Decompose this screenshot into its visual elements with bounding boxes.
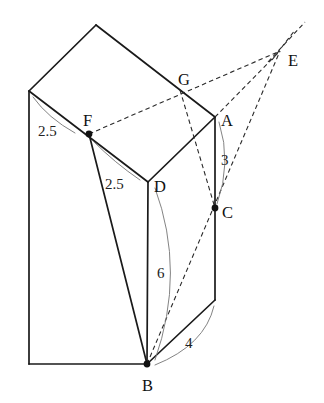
measure-arc-group [33, 97, 225, 365]
edge-top-apex-to-right [96, 25, 215, 117]
dashed-G-to-C-extended [180, 90, 215, 208]
vertex-label-f: F [83, 111, 92, 130]
vertex-dot-group [86, 131, 219, 368]
vertex-dot-c [212, 205, 219, 212]
vertex-label-a: A [221, 111, 233, 130]
vertex-dot-b [144, 361, 151, 368]
arc-2.5-F-D [93, 141, 140, 180]
geometry-canvas: ABCDEFG 2.52.5364 [0, 0, 324, 403]
measurement-label-m-bc-base: 4 [185, 335, 193, 351]
vertex-label-b: B [142, 376, 153, 395]
measurement-label-m-fa: 2.5 [38, 123, 57, 139]
vertex-label-d: D [154, 177, 166, 196]
vertex-label-e: E [288, 51, 298, 70]
dashed-A-to-E [215, 51, 280, 117]
vertex-label-g: G [178, 70, 190, 89]
edge-D-vertical-to-B [147, 182, 148, 364]
dashed-E-ray-far [268, 22, 305, 62]
dashed-F-to-E [89, 51, 280, 134]
edge-F-to-B [89, 134, 147, 364]
dashed-edge-group [89, 22, 305, 364]
edge-top-apex-to-left [29, 25, 96, 91]
measurement-label-m-db: 6 [157, 265, 165, 281]
measurement-label-m-fd: 2.5 [105, 176, 124, 192]
vertex-dot-f [86, 131, 93, 138]
geometry-figure: ABCDEFG 2.52.5364 [0, 0, 324, 403]
measurement-label-m-ac: 3 [221, 152, 229, 168]
vertex-label-c: C [222, 203, 233, 222]
